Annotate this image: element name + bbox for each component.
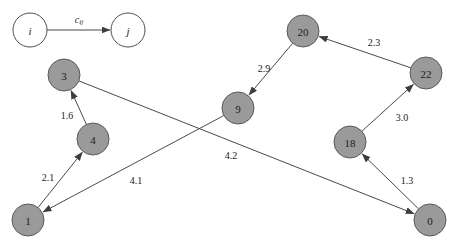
edge-weight-label: 4.2 [225, 150, 238, 161]
edge-weight-label: 2.3 [368, 37, 381, 48]
graph-node-22[interactable]: 22 [410, 57, 442, 89]
node-circle[interactable] [222, 92, 254, 124]
edge-weight-label: 2.1 [42, 172, 55, 183]
legend-source-node [13, 13, 47, 47]
nodes-layer: 34192022180 [12, 15, 446, 236]
graph-diagram-canvas: 2.11.64.24.12.92.33.01.3 34192022180 i j… [0, 0, 455, 249]
graph-node-3[interactable]: 3 [48, 59, 80, 91]
node-circle[interactable] [334, 126, 366, 158]
legend-cost-label: cij [75, 14, 83, 26]
graph-node-4[interactable]: 4 [77, 123, 109, 155]
graph-edge [249, 43, 293, 95]
node-circle[interactable] [287, 15, 319, 47]
node-circle[interactable] [48, 59, 80, 91]
graph-node-1[interactable]: 1 [12, 204, 44, 236]
node-circle[interactable] [414, 204, 446, 236]
edge-weight-label: 3.0 [396, 112, 409, 123]
legend-group: i j cij [13, 13, 145, 47]
edge-weight-label: 4.1 [130, 175, 143, 186]
graph-node-9[interactable]: 9 [222, 92, 254, 124]
graph-svg-surface: 2.11.64.24.12.92.33.01.3 34192022180 i j… [0, 0, 455, 249]
graph-node-18[interactable]: 18 [334, 126, 366, 158]
graph-edge [319, 36, 411, 67]
graph-node-20[interactable]: 20 [287, 15, 319, 47]
node-circle[interactable] [77, 123, 109, 155]
graph-edge [43, 116, 224, 212]
graph-edge [71, 90, 86, 124]
node-circle[interactable] [12, 204, 44, 236]
graph-edge [38, 152, 82, 207]
node-circle[interactable] [410, 57, 442, 89]
edge-weight-label: 1.3 [401, 175, 414, 186]
graph-node-0[interactable]: 0 [414, 204, 446, 236]
edge-weight-label: 1.6 [61, 110, 74, 121]
graph-edge [362, 84, 414, 131]
graph-edge [362, 154, 418, 209]
legend-target-node [111, 13, 145, 47]
